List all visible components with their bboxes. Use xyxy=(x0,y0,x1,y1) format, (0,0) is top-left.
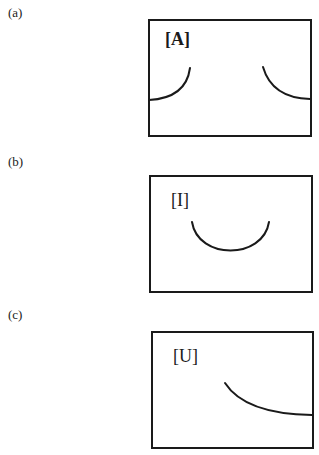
panel-c-descending-curve xyxy=(225,383,312,415)
panel-c-curves xyxy=(0,0,319,455)
